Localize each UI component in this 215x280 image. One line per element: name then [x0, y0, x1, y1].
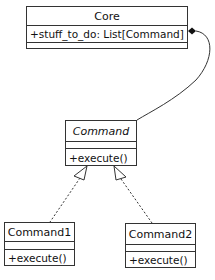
- class-attributes-empty: [66, 142, 136, 149]
- class-method: +execute(): [66, 149, 136, 166]
- class-command[interactable]: Command +execute(): [65, 120, 137, 166]
- class-name: Core: [27, 7, 187, 26]
- class-core[interactable]: Core +stuff_to_do: List[Command]: [26, 6, 188, 49]
- realization-line-command1: [50, 178, 80, 222]
- realization-arrow-icon-command1: [74, 166, 87, 180]
- class-name: Command2: [126, 224, 195, 245]
- class-attribute: +stuff_to_do: List[Command]: [27, 26, 187, 43]
- class-command1[interactable]: Command1 +execute(): [4, 222, 75, 266]
- realization-line-command2: [121, 179, 152, 223]
- class-method: +execute(): [126, 252, 195, 268]
- class-command2[interactable]: Command2 +execute(): [125, 223, 196, 268]
- class-attributes-empty: [126, 245, 195, 252]
- realization-arrow-icon-command2: [114, 166, 126, 180]
- class-method: +execute(): [5, 250, 74, 266]
- class-name: Command: [66, 121, 136, 142]
- class-methods-empty: [27, 43, 187, 49]
- class-attributes-empty: [5, 242, 74, 250]
- composition-diamond-icon: [188, 28, 196, 35]
- class-name: Command1: [5, 223, 74, 242]
